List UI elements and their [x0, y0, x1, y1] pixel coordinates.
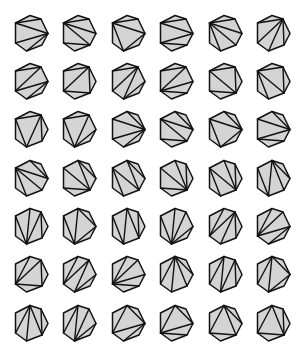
heptagon-shape — [16, 209, 49, 245]
heptagon-triangulation — [16, 209, 49, 245]
heptagon-triangulation — [16, 257, 49, 293]
heptagon-triangulation — [64, 16, 97, 52]
diagonal-line — [186, 164, 187, 190]
diagonal-line — [283, 67, 284, 93]
heptagon-triangulation — [210, 64, 243, 100]
heptagon-triangulation — [113, 209, 146, 245]
diagonal-line — [41, 309, 42, 335]
heptagon-triangulation — [258, 257, 291, 293]
heptagon-triangulation — [161, 257, 194, 293]
diagonal-line — [41, 212, 42, 238]
heptagon-triangulation — [113, 161, 146, 197]
diagonal-line — [41, 115, 42, 141]
heptagon-triangulation — [113, 16, 146, 52]
heptagon-triangulation — [64, 306, 97, 342]
diagonal-line — [41, 260, 42, 286]
diagonal-line — [235, 67, 236, 93]
heptagon-triangulation — [16, 112, 49, 148]
heptagon-triangulation — [161, 16, 194, 52]
diagonal-line — [235, 260, 236, 286]
heptagon-triangulation — [258, 16, 291, 52]
heptagon-triangulation — [161, 112, 194, 148]
diagonal-line — [235, 212, 236, 238]
heptagon-triangulation — [161, 161, 194, 197]
heptagon-triangulation — [210, 306, 243, 342]
heptagon-triangulation — [161, 306, 194, 342]
heptagon-triangulation — [210, 161, 243, 197]
diagonal-line — [283, 309, 284, 335]
heptagon-triangulation — [64, 209, 97, 245]
heptagon-triangulation — [16, 306, 49, 342]
heptagon-triangulation — [210, 112, 243, 148]
heptagon-triangulation — [113, 257, 146, 293]
heptagon-triangulation — [16, 161, 49, 197]
heptagon-triangulation — [16, 64, 49, 100]
diagonal-line — [89, 67, 90, 93]
diagonal-line — [138, 212, 139, 238]
heptagon-shape — [210, 112, 243, 148]
heptagon-triangulation — [113, 112, 146, 148]
heptagon-triangulation — [64, 112, 97, 148]
heptagon-triangulation — [258, 64, 291, 100]
heptagon-triangulation — [210, 16, 243, 52]
heptagon-triangulation — [16, 16, 49, 52]
heptagon-shape — [16, 161, 49, 197]
heptagon-shape — [113, 112, 146, 148]
heptagon-triangulation — [210, 209, 243, 245]
heptagon-triangulation — [210, 257, 243, 293]
diagonal-line — [283, 19, 284, 45]
heptagon-triangulation — [258, 112, 291, 148]
triangulation-grid — [0, 0, 303, 353]
heptagon-triangulation — [161, 64, 194, 100]
heptagon-triangulation — [258, 161, 291, 197]
heptagon-triangulation — [258, 209, 291, 245]
heptagon-triangulation — [64, 161, 97, 197]
heptagon-triangulation — [113, 306, 146, 342]
heptagon-shape — [258, 112, 291, 148]
heptagon-shape — [161, 112, 194, 148]
heptagon-shape — [161, 209, 194, 245]
diagonal-line — [235, 164, 236, 190]
heptagon-triangulation — [258, 306, 291, 342]
heptagon-shape — [64, 209, 97, 245]
heptagon-triangulation — [64, 257, 97, 293]
heptagon-triangulation — [113, 64, 146, 100]
heptagon-triangulation — [64, 64, 97, 100]
heptagon-triangulation — [161, 209, 194, 245]
